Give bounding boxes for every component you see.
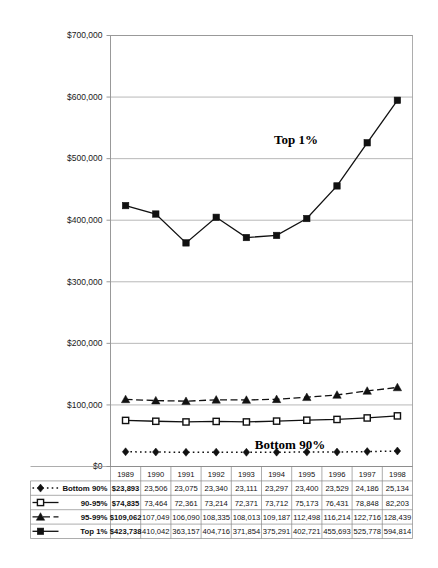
data-point-top-1-1994 [273,232,279,238]
data-point-bottom-90-1989 [122,448,129,456]
table-cell-top-1-1997: 525,778 [353,527,380,536]
series-line-top-1 [126,100,398,243]
legend-marker-bottom-90 [37,484,44,492]
table-cell-bottom-90-1989: $23,893 [112,484,139,493]
data-point-bottom-90-1997 [364,448,371,456]
y-tick-label-700000: $700,000 [67,30,103,40]
table-cell-95-99-1993: 108,013 [233,513,260,522]
data-point-bottom-90-1990 [153,448,160,456]
table-cell-top-1-1995: 402,721 [293,527,320,536]
y-tick-label-400000: $400,000 [67,215,103,225]
data-point-bottom-90-1996 [334,448,341,456]
data-point-top-1-1993 [243,234,249,240]
legend-label-90-95: 90-95% [81,499,108,508]
data-point-90-95-1994 [274,418,280,424]
series-line-95-99 [126,387,398,401]
data-point-bottom-90-1992 [213,448,220,456]
annotation-top-1: Top 1% [274,132,318,147]
table-header-1993: 1993 [238,470,255,479]
y-tick-label-600000: $600,000 [67,92,103,102]
annotation-bottom-90: Bottom 90% [255,437,325,452]
table-header-1989: 1989 [117,470,134,479]
table-cell-bottom-90-1991: 23,075 [174,484,197,493]
table-cell-90-95-1994: 73,712 [265,499,288,508]
data-point-top-1-1997 [364,140,370,146]
data-point-90-95-1989 [123,417,129,423]
table-header-1997: 1997 [359,470,376,479]
data-point-95-99-1998 [393,383,401,391]
data-point-90-95-1993 [243,419,249,425]
table-cell-top-1-1993: 371,854 [233,527,260,536]
data-point-top-1-1995 [304,215,310,221]
table-cell-bottom-90-1995: 23,400 [295,484,318,493]
table-cell-90-95-1991: 72,361 [174,499,197,508]
table-cell-top-1-1996: 455,693 [323,527,350,536]
table-cell-95-99-1994: 109,187 [263,513,290,522]
data-point-top-1-1991 [183,240,189,246]
y-axis-tick-labels: $0$100,000$200,000$300,000$400,000$500,0… [67,30,110,471]
chart-annotations: Top 1%Bottom 90% [255,132,325,452]
legend-label-bottom-90: Bottom 90% [62,484,107,493]
table-cell-95-99-1995: 112,498 [293,513,320,522]
table-cell-top-1-1990: 410,042 [142,527,169,536]
legend-label-95-99: 95-99% [81,513,108,522]
table-cell-bottom-90-1990: 23,506 [144,484,167,493]
table-cell-bottom-90-1996: 23,529 [325,484,348,493]
y-tick-label-300000: $300,000 [67,277,103,287]
data-point-top-1-1992 [213,214,219,220]
data-point-90-95-1991 [183,419,189,425]
table-cell-90-95-1989: $74,835 [112,499,140,508]
data-point-bottom-90-1991 [183,448,190,456]
data-point-90-95-1995 [304,417,310,423]
table-cell-90-95-1997: 78,848 [356,499,379,508]
income-by-percentile-chart-figure: $0$100,000$200,000$300,000$400,000$500,0… [0,0,438,568]
table-cell-90-95-1995: 75,173 [295,499,318,508]
table-cell-95-99-1997: 122,716 [353,513,380,522]
table-cell-top-1-1989: $423,738 [110,527,142,536]
data-point-top-1-1990 [153,211,159,217]
table-header-1992: 1992 [208,470,225,479]
table-cell-95-99-1991: 106,090 [172,513,199,522]
table-cell-95-99-1989: $109,062 [110,513,142,522]
table-header-1994: 1994 [268,470,285,479]
table-cell-90-95-1992: 73,214 [205,499,228,508]
data-point-top-1-1998 [394,97,400,103]
table-header-1998: 1998 [389,470,406,479]
data-point-90-95-1996 [334,416,340,422]
data-point-90-95-1992 [213,418,219,424]
table-cell-bottom-90-1998: 25,134 [386,484,409,493]
legend-marker-top-1 [37,528,43,534]
table-header-1995: 1995 [298,470,315,479]
table-header-1990: 1990 [147,470,164,479]
table-cell-bottom-90-1994: 23,297 [265,484,288,493]
data-point-top-1-1989 [122,202,128,208]
table-cell-90-95-1996: 76,431 [325,499,348,508]
table-header-1996: 1996 [329,470,346,479]
chart-canvas: $0$100,000$200,000$300,000$400,000$500,0… [0,0,438,568]
y-tick-label-200000: $200,000 [67,338,103,348]
series-markers [121,97,401,456]
data-point-90-95-1997 [364,415,370,421]
table-cell-top-1-1992: 404,716 [202,527,229,536]
table-cell-bottom-90-1993: 23,111 [235,484,257,493]
table-cell-top-1-1991: 363,157 [172,527,199,536]
table-header-1991: 1991 [178,470,195,479]
y-tick-label-500000: $500,000 [67,153,103,163]
data-point-bottom-90-1993 [243,448,250,456]
table-cell-90-95-1993: 72,371 [235,499,258,508]
table-cell-top-1-1994: 375,291 [263,527,290,536]
data-point-90-95-1998 [394,413,400,419]
data-table: 1989199019911992199319941995199619971998… [31,467,413,539]
table-cell-90-95-1998: 82,203 [386,499,409,508]
table-cell-95-99-1996: 116,214 [324,513,351,522]
table-cell-95-99-1998: 128,439 [384,513,411,522]
table-cell-95-99-1990: 107,049 [142,513,169,522]
table-cell-95-99-1992: 108,335 [202,513,229,522]
data-point-top-1-1996 [334,183,340,189]
data-point-bottom-90-1998 [394,447,401,455]
series-lines [126,100,398,452]
table-cell-bottom-90-1997: 24,186 [356,484,379,493]
y-tick-label-100000: $100,000 [67,400,103,410]
table-cell-90-95-1990: 73,464 [144,499,167,508]
table-cell-top-1-1998: 594,814 [384,527,411,536]
